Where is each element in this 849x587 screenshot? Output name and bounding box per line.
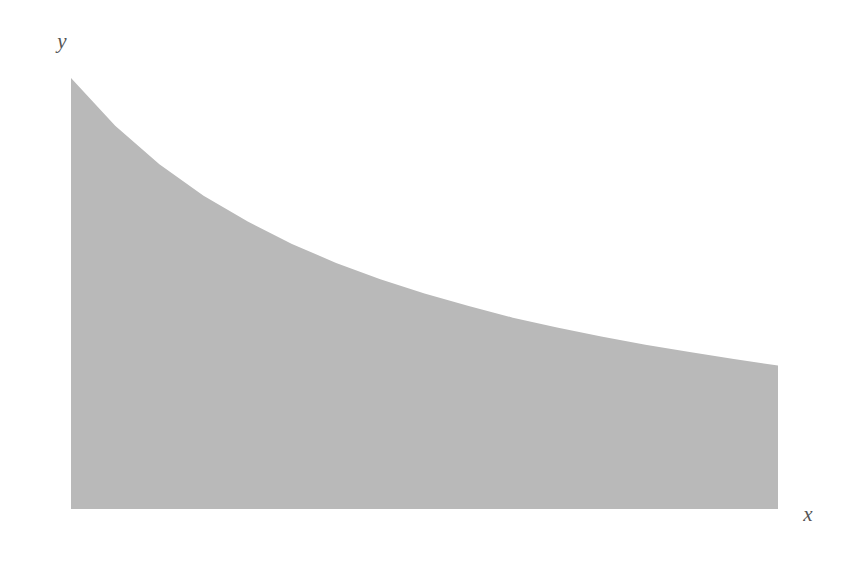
plot-canvas: y x: [0, 0, 849, 587]
y-axis-label: y: [55, 29, 67, 53]
x-axis-label: x: [802, 502, 813, 526]
riemann-sum-figure: y x: [0, 0, 849, 587]
area-under-curve: [71, 78, 778, 509]
